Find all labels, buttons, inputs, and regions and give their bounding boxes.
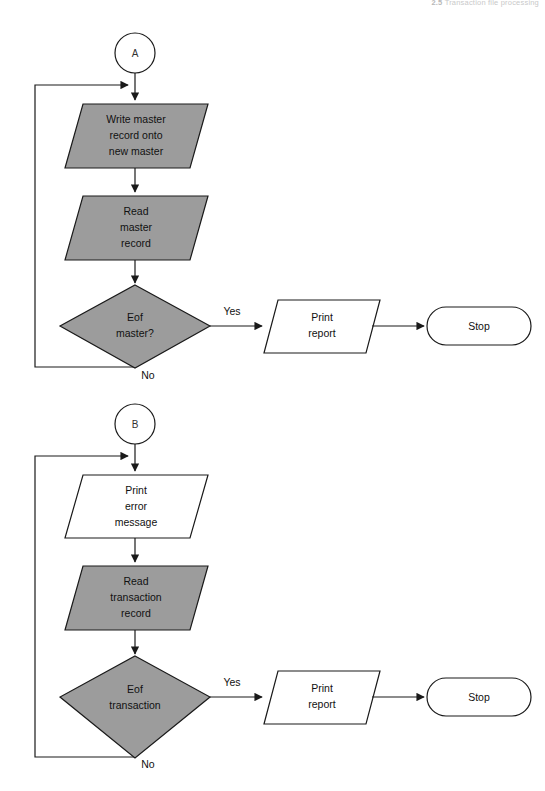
node-read-master-line-2: master (120, 221, 153, 233)
node-eof-master-line-2: master? (116, 327, 154, 339)
node-print-report-a-line-2: report (308, 327, 336, 339)
edge-label-eof-transaction-no: No (141, 758, 155, 770)
flowchart-canvas: A Write master record onto new master Re… (0, 0, 545, 791)
node-stop-a-label: Stop (468, 320, 490, 332)
diagram-a: A Write master record onto new master Re… (35, 33, 531, 381)
node-print-error: Print error message (65, 475, 208, 538)
node-read-transaction-line-2: transaction (110, 591, 162, 603)
connector-a: A (115, 33, 155, 73)
edge-label-eof-master-yes: Yes (223, 305, 240, 317)
node-read-transaction-line-1: Read (123, 575, 148, 587)
node-print-report-b: Print report (264, 671, 380, 724)
node-eof-master: Eof master? (60, 285, 210, 368)
edge-label-eof-master-no: No (141, 369, 155, 381)
node-print-error-line-3: message (115, 516, 158, 528)
node-write-master-line-3: new master (109, 145, 164, 157)
node-read-master-line-1: Read (123, 205, 148, 217)
node-print-report-b-line-1: Print (311, 682, 333, 694)
node-print-report-a: Print report (264, 300, 380, 353)
node-eof-transaction-line-1: Eof (127, 683, 143, 695)
node-write-master: Write master record onto new master (65, 104, 208, 168)
flowchart-page: 2.5 Transaction file processing A Write … (0, 0, 545, 791)
node-eof-transaction-line-2: transaction (109, 699, 161, 711)
node-print-report-b-line-2: report (308, 698, 336, 710)
node-write-master-line-1: Write master (106, 113, 166, 125)
node-read-master-line-3: record (121, 237, 151, 249)
connector-a-label: A (132, 48, 139, 59)
connector-b-label: B (132, 419, 139, 430)
node-read-transaction: Read transaction record (65, 566, 208, 630)
node-stop-a: Stop (427, 307, 531, 345)
node-read-master: Read master record (65, 196, 208, 260)
node-stop-b: Stop (427, 678, 531, 716)
node-stop-b-label: Stop (468, 691, 490, 703)
node-eof-master-line-1: Eof (127, 311, 143, 323)
node-print-report-a-line-1: Print (311, 311, 333, 323)
node-print-error-line-2: error (125, 500, 148, 512)
node-write-master-line-2: record onto (109, 129, 162, 141)
node-eof-transaction: Eof transaction (60, 656, 210, 758)
edge-label-eof-transaction-yes: Yes (223, 676, 240, 688)
node-print-error-line-1: Print (125, 484, 147, 496)
diagram-b: B Print error message Read transaction r… (35, 404, 531, 770)
connector-b: B (115, 404, 155, 444)
node-read-transaction-line-3: record (121, 607, 151, 619)
